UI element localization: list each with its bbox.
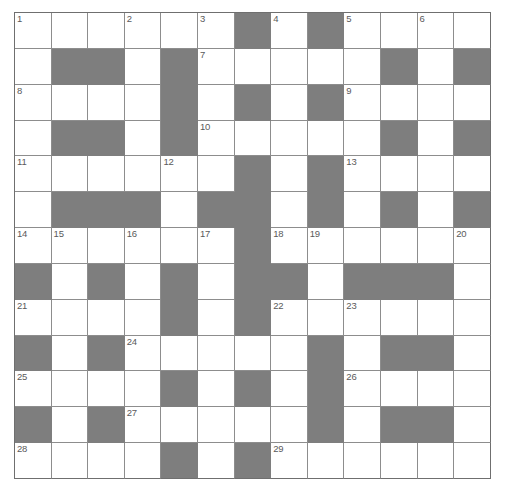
crossword-open-cell[interactable] bbox=[454, 407, 491, 443]
crossword-open-cell[interactable] bbox=[52, 264, 89, 300]
crossword-open-cell[interactable]: 4 bbox=[271, 13, 308, 49]
crossword-open-cell[interactable] bbox=[418, 49, 455, 85]
crossword-open-cell[interactable] bbox=[88, 371, 125, 407]
crossword-open-cell[interactable] bbox=[15, 192, 52, 228]
crossword-open-cell[interactable] bbox=[344, 407, 381, 443]
crossword-open-cell[interactable] bbox=[52, 156, 89, 192]
crossword-open-cell[interactable] bbox=[308, 264, 345, 300]
crossword-open-cell[interactable] bbox=[308, 49, 345, 85]
crossword-open-cell[interactable] bbox=[344, 443, 381, 479]
crossword-open-cell[interactable]: 10 bbox=[198, 121, 235, 157]
crossword-open-cell[interactable] bbox=[198, 336, 235, 372]
crossword-open-cell[interactable] bbox=[198, 156, 235, 192]
crossword-open-cell[interactable] bbox=[418, 192, 455, 228]
crossword-open-cell[interactable] bbox=[52, 336, 89, 372]
crossword-open-cell[interactable] bbox=[454, 443, 491, 479]
crossword-open-cell[interactable] bbox=[381, 371, 418, 407]
crossword-open-cell[interactable] bbox=[418, 371, 455, 407]
crossword-open-cell[interactable] bbox=[88, 228, 125, 264]
crossword-open-cell[interactable] bbox=[198, 300, 235, 336]
crossword-open-cell[interactable] bbox=[271, 49, 308, 85]
crossword-open-cell[interactable] bbox=[235, 407, 272, 443]
crossword-open-cell[interactable] bbox=[88, 443, 125, 479]
crossword-open-cell[interactable]: 7 bbox=[198, 49, 235, 85]
crossword-open-cell[interactable] bbox=[198, 443, 235, 479]
crossword-open-cell[interactable]: 2 bbox=[125, 13, 162, 49]
crossword-open-cell[interactable]: 6 bbox=[418, 13, 455, 49]
crossword-open-cell[interactable] bbox=[161, 336, 198, 372]
crossword-open-cell[interactable] bbox=[271, 156, 308, 192]
crossword-open-cell[interactable] bbox=[52, 371, 89, 407]
crossword-open-cell[interactable]: 5 bbox=[344, 13, 381, 49]
crossword-open-cell[interactable] bbox=[271, 407, 308, 443]
crossword-open-cell[interactable] bbox=[454, 300, 491, 336]
crossword-open-cell[interactable] bbox=[88, 300, 125, 336]
crossword-open-cell[interactable] bbox=[381, 228, 418, 264]
crossword-open-cell[interactable] bbox=[235, 121, 272, 157]
crossword-open-cell[interactable]: 19 bbox=[308, 228, 345, 264]
crossword-open-cell[interactable] bbox=[161, 228, 198, 264]
crossword-open-cell[interactable] bbox=[418, 443, 455, 479]
crossword-open-cell[interactable] bbox=[88, 13, 125, 49]
crossword-open-cell[interactable]: 28 bbox=[15, 443, 52, 479]
crossword-open-cell[interactable] bbox=[344, 121, 381, 157]
crossword-open-cell[interactable] bbox=[161, 407, 198, 443]
crossword-open-cell[interactable] bbox=[381, 156, 418, 192]
crossword-open-cell[interactable] bbox=[52, 85, 89, 121]
crossword-open-cell[interactable] bbox=[454, 336, 491, 372]
crossword-open-cell[interactable]: 23 bbox=[344, 300, 381, 336]
crossword-open-cell[interactable] bbox=[344, 336, 381, 372]
crossword-open-cell[interactable] bbox=[52, 13, 89, 49]
crossword-open-cell[interactable] bbox=[52, 443, 89, 479]
crossword-open-cell[interactable] bbox=[271, 371, 308, 407]
crossword-open-cell[interactable] bbox=[381, 85, 418, 121]
crossword-open-cell[interactable] bbox=[161, 192, 198, 228]
crossword-open-cell[interactable]: 12 bbox=[161, 156, 198, 192]
crossword-open-cell[interactable] bbox=[125, 156, 162, 192]
crossword-open-cell[interactable] bbox=[454, 371, 491, 407]
crossword-open-cell[interactable] bbox=[271, 85, 308, 121]
crossword-open-cell[interactable] bbox=[52, 300, 89, 336]
crossword-open-cell[interactable]: 15 bbox=[52, 228, 89, 264]
crossword-open-cell[interactable] bbox=[235, 49, 272, 85]
crossword-open-cell[interactable] bbox=[125, 300, 162, 336]
crossword-open-cell[interactable] bbox=[198, 85, 235, 121]
crossword-open-cell[interactable] bbox=[125, 85, 162, 121]
crossword-open-cell[interactable]: 14 bbox=[15, 228, 52, 264]
crossword-open-cell[interactable]: 8 bbox=[15, 85, 52, 121]
crossword-open-cell[interactable]: 25 bbox=[15, 371, 52, 407]
crossword-open-cell[interactable]: 11 bbox=[15, 156, 52, 192]
crossword-open-cell[interactable]: 16 bbox=[125, 228, 162, 264]
crossword-open-cell[interactable] bbox=[198, 407, 235, 443]
crossword-open-cell[interactable] bbox=[125, 371, 162, 407]
crossword-open-cell[interactable] bbox=[381, 300, 418, 336]
crossword-open-cell[interactable] bbox=[344, 192, 381, 228]
crossword-open-cell[interactable] bbox=[271, 336, 308, 372]
crossword-open-cell[interactable]: 29 bbox=[271, 443, 308, 479]
crossword-open-cell[interactable] bbox=[418, 228, 455, 264]
crossword-open-cell[interactable] bbox=[454, 264, 491, 300]
crossword-open-cell[interactable]: 18 bbox=[271, 228, 308, 264]
crossword-open-cell[interactable]: 27 bbox=[125, 407, 162, 443]
crossword-open-cell[interactable] bbox=[381, 13, 418, 49]
crossword-open-cell[interactable]: 22 bbox=[271, 300, 308, 336]
crossword-open-cell[interactable] bbox=[271, 121, 308, 157]
crossword-open-cell[interactable] bbox=[15, 49, 52, 85]
crossword-open-cell[interactable] bbox=[381, 443, 418, 479]
crossword-open-cell[interactable] bbox=[418, 85, 455, 121]
crossword-open-cell[interactable] bbox=[125, 443, 162, 479]
crossword-open-cell[interactable]: 9 bbox=[344, 85, 381, 121]
crossword-open-cell[interactable] bbox=[88, 156, 125, 192]
crossword-open-cell[interactable] bbox=[125, 121, 162, 157]
crossword-open-cell[interactable] bbox=[308, 121, 345, 157]
crossword-open-cell[interactable] bbox=[454, 13, 491, 49]
crossword-open-cell[interactable]: 1 bbox=[15, 13, 52, 49]
crossword-open-cell[interactable] bbox=[198, 264, 235, 300]
crossword-open-cell[interactable] bbox=[308, 443, 345, 479]
crossword-open-cell[interactable] bbox=[198, 371, 235, 407]
crossword-open-cell[interactable]: 26 bbox=[344, 371, 381, 407]
crossword-open-cell[interactable] bbox=[15, 121, 52, 157]
crossword-open-cell[interactable] bbox=[271, 192, 308, 228]
crossword-open-cell[interactable] bbox=[418, 121, 455, 157]
crossword-open-cell[interactable] bbox=[88, 85, 125, 121]
